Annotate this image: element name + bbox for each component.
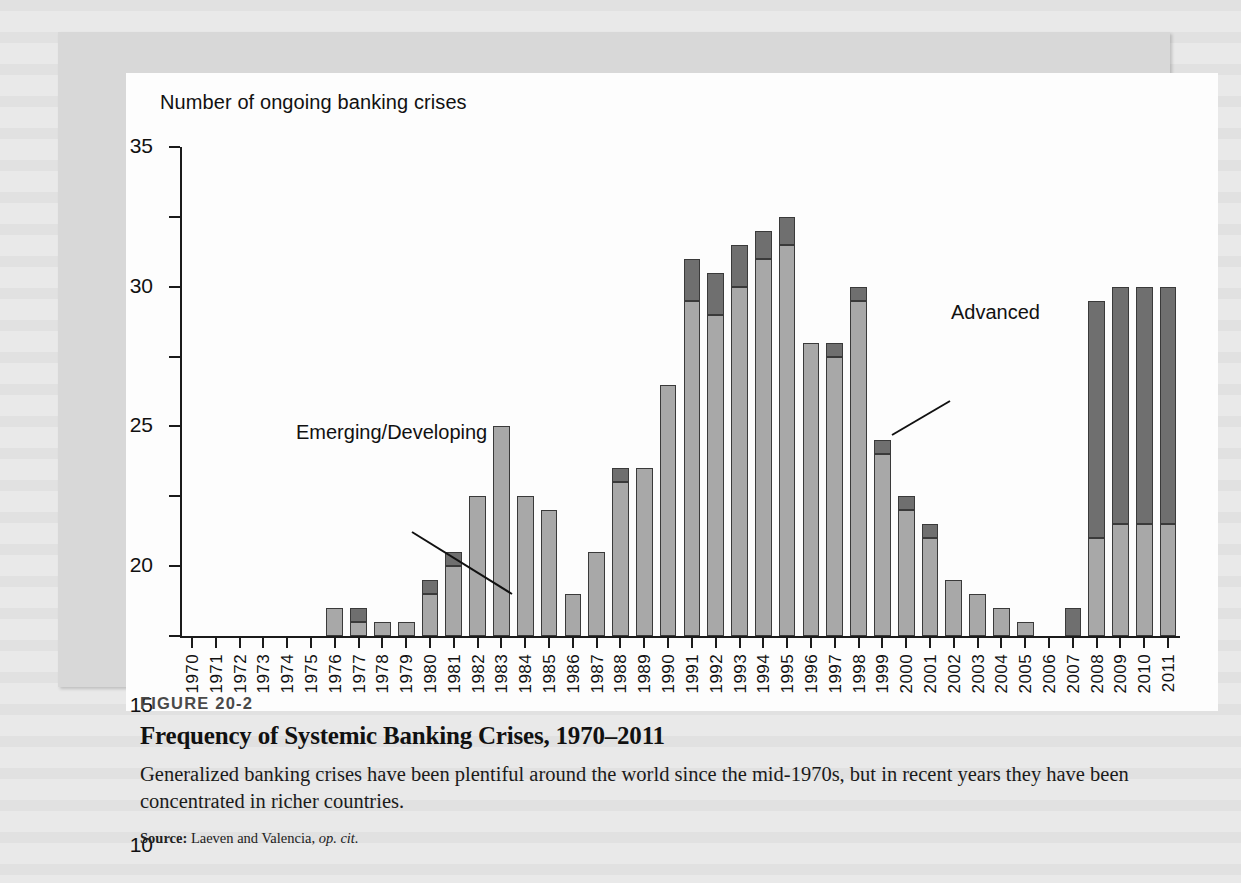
x-axis-tick <box>1072 636 1074 648</box>
bar-segment-emerging <box>874 454 891 636</box>
bar-segment-emerging <box>826 357 843 636</box>
bar-segment-emerging <box>945 580 962 636</box>
x-axis-tick <box>334 636 336 648</box>
bar-1995 <box>779 217 796 636</box>
bar-2010 <box>1136 287 1153 636</box>
x-axis-tick <box>262 636 264 648</box>
x-axis-tick <box>405 636 407 648</box>
x-axis-tick <box>286 636 288 648</box>
x-axis-tick-label: 1995 <box>778 654 798 693</box>
x-axis-tick-label: 1989 <box>635 654 655 693</box>
bar-segment-advanced <box>874 440 891 454</box>
x-axis-tick-label: 2008 <box>1088 654 1108 693</box>
bar-2011 <box>1160 287 1177 636</box>
y-axis-tick: 10 <box>169 495 180 497</box>
x-axis-tick-label: 1992 <box>707 654 727 693</box>
x-axis-tick-label: 2011 <box>1159 654 1179 692</box>
bar-segment-emerging <box>350 622 367 636</box>
bar-segment-advanced <box>350 608 367 622</box>
bar-segment-emerging <box>731 287 748 636</box>
x-axis-tick <box>453 636 455 648</box>
annotation-emerging-developing: Emerging/Developing <box>296 421 487 444</box>
bar-1994 <box>755 231 772 636</box>
x-axis-line <box>180 636 1180 638</box>
bar-2004 <box>993 608 1010 636</box>
x-axis-tick <box>929 636 931 648</box>
advanced-leader-line <box>892 401 992 461</box>
y-axis-tick: 25 <box>169 286 180 288</box>
x-axis-tick <box>786 636 788 648</box>
bar-segment-emerging <box>1160 524 1177 636</box>
bar-segment-emerging <box>755 259 772 636</box>
x-axis-tick <box>881 636 883 648</box>
x-axis-tick-label: 2010 <box>1135 654 1155 693</box>
x-axis-tick-label: 1984 <box>516 654 536 693</box>
bar-segment-advanced <box>1160 287 1177 525</box>
figure-title: Frequency of Systemic Banking Crises, 19… <box>140 722 1160 750</box>
x-axis-tick-label: 1993 <box>731 654 751 693</box>
x-axis-tick <box>596 636 598 648</box>
y-axis-tick-label: 25 <box>130 413 153 437</box>
x-axis-tick-label: 2000 <box>897 654 917 693</box>
x-axis-tick <box>1024 636 1026 648</box>
bar-segment-advanced <box>826 343 843 357</box>
source-text: Laeven and Valencia, <box>191 830 315 846</box>
x-axis-tick-label: 1999 <box>873 654 893 693</box>
x-axis-tick <box>500 636 502 648</box>
figure-caption-block: FIGURE 20-2 Frequency of Systemic Bankin… <box>140 694 1160 847</box>
y-axis-tick: 30 <box>169 216 180 218</box>
bar-1999 <box>874 440 891 636</box>
bar-segment-emerging <box>612 482 629 636</box>
emerging-leader-line <box>412 532 552 602</box>
x-axis-tick <box>548 636 550 648</box>
x-axis-tick-label: 1988 <box>611 654 631 693</box>
x-axis-tick-label: 1975 <box>302 654 322 693</box>
bar-segment-emerging <box>1088 538 1105 636</box>
bar-2001 <box>922 524 939 636</box>
bar-2002 <box>945 580 962 636</box>
bar-segment-emerging <box>1017 622 1034 636</box>
bar-1990 <box>660 385 677 636</box>
x-axis-tick-label: 2002 <box>945 654 965 693</box>
y-axis-tick: 5 <box>169 565 180 567</box>
x-axis-tick-label: 2006 <box>1040 654 1060 693</box>
x-axis-tick <box>810 636 812 648</box>
bar-segment-emerging <box>993 608 1010 636</box>
x-axis-tick <box>1048 636 1050 648</box>
x-axis-tick-label: 1980 <box>421 654 441 693</box>
bar-segment-emerging <box>374 622 391 636</box>
y-axis-tick-label: 35 <box>130 134 153 158</box>
bar-segment-emerging <box>969 594 986 636</box>
y-axis-title: Number of ongoing banking crises <box>160 91 467 114</box>
x-axis-tick <box>429 636 431 648</box>
plot-area: 05101520253035 1970197119721973197419751… <box>180 147 1180 636</box>
bar-segment-advanced <box>1088 301 1105 539</box>
bar-segment-emerging <box>684 301 701 636</box>
x-axis-tick-label: 1982 <box>469 654 489 693</box>
source-citation: op. cit. <box>319 830 359 846</box>
x-axis-tick <box>191 636 193 648</box>
bar-segment-emerging <box>636 468 653 636</box>
source-label: Source: <box>140 830 187 846</box>
bar-segment-emerging <box>326 608 343 636</box>
x-axis-tick <box>858 636 860 648</box>
bar-segment-emerging <box>588 552 605 636</box>
bar-segment-advanced <box>898 496 915 510</box>
bar-segment-advanced <box>1136 287 1153 525</box>
x-axis-tick <box>667 636 669 648</box>
bar-segment-advanced <box>1065 608 1082 636</box>
bar-2007 <box>1065 608 1082 636</box>
bar-2005 <box>1017 622 1034 636</box>
x-axis-tick-label: 2001 <box>921 654 941 693</box>
x-axis-tick-label: 1994 <box>754 654 774 693</box>
figure-source: Source: Laeven and Valencia, op. cit. <box>140 830 1160 847</box>
x-axis-tick-label: 2007 <box>1064 654 1084 693</box>
bar-2008 <box>1088 301 1105 636</box>
x-axis-tick <box>905 636 907 648</box>
x-axis-tick-label: 1983 <box>492 654 512 693</box>
x-axis-tick <box>1096 636 1098 648</box>
x-axis-tick-label: 1981 <box>445 654 465 693</box>
x-axis-tick <box>1000 636 1002 648</box>
bar-1977 <box>350 608 367 636</box>
y-axis-tick: 15 <box>169 425 180 427</box>
